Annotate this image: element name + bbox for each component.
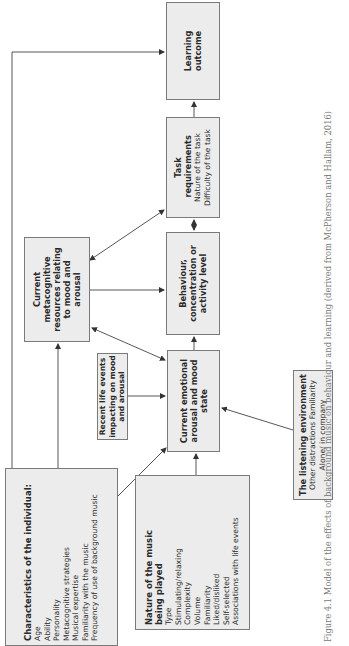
characteristics-item: Metacognitive strategies (62, 547, 72, 641)
nature-of-music-box: Nature of the music being played Type St… (135, 475, 250, 630)
recent-life-events-box: Recent life events impacting on mood and… (97, 353, 128, 440)
music-item: Familiarity (203, 586, 213, 625)
characteristics-item: Musical expertise (71, 575, 81, 641)
characteristics-box: Characteristics of the individual: Age A… (5, 468, 118, 646)
behaviour-title: Behaviour, concentration or activity lev… (178, 238, 208, 330)
metacognitive-box: Current metacognitive resources relating… (24, 237, 90, 342)
music-item: Type (164, 608, 174, 625)
music-item: Self-selected (222, 576, 232, 625)
characteristics-item: Frequency of use of background music (90, 494, 100, 641)
task-item: Difficulty of the task (203, 129, 213, 206)
arrow-environment-to-emotional (222, 408, 293, 430)
nature-of-music-title: Nature of the music being played (144, 525, 164, 625)
task-item: Nature of the task (193, 133, 203, 202)
listening-environment-title: The listening environment (298, 374, 308, 496)
characteristics-item: Ability (43, 617, 53, 641)
emotional-state-box: Current emotional arousal and mood state (167, 350, 220, 452)
environment-item: Other distractions Familiarity (308, 380, 318, 490)
music-item: Stimulating/relaxing (174, 548, 184, 625)
learning-outcome-box: Learning outcome (166, 2, 220, 100)
diagram-canvas: Learning outcome Task requirements Natur… (0, 0, 349, 646)
music-item: Complexity (183, 582, 193, 625)
task-requirements-box: Task requirements Nature of the task Dif… (166, 117, 220, 218)
music-item: Associations with life events (231, 517, 241, 625)
learning-outcome-title: Learning outcome (183, 26, 203, 76)
arrow-metacognitive-task (90, 210, 164, 260)
behaviour-box: Behaviour, concentration or activity lev… (166, 232, 220, 335)
music-item: Volume (193, 597, 203, 625)
characteristics-title: Characteristics of the individual: (23, 484, 33, 641)
characteristics-item: Age (33, 626, 43, 641)
recent-life-events-title: Recent life events impacting on mood and… (98, 355, 127, 439)
emotional-state-title: Current emotional arousal and mood state (179, 355, 209, 447)
task-requirements-title: Task requirements (173, 138, 193, 198)
music-item: Liked/disliked (212, 574, 222, 625)
characteristics-item: Familiarity with the music (81, 543, 91, 641)
characteristics-item: Personality (52, 599, 62, 641)
figure-caption: Figure 4.1 Model of the effects of backg… (323, 2, 333, 642)
metacognitive-title: Current metacognitive resources relating… (32, 246, 82, 334)
